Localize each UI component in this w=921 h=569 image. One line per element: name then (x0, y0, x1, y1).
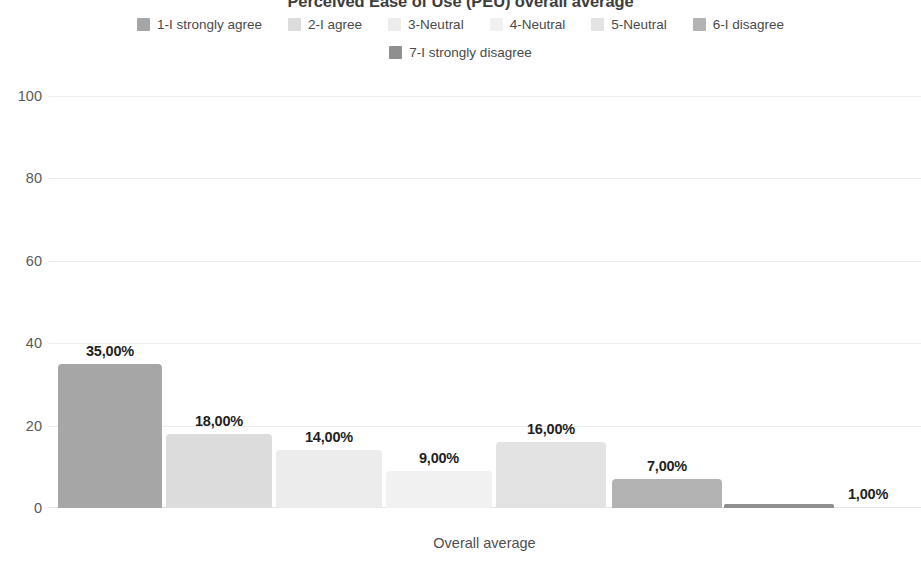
bar[interactable] (724, 504, 834, 508)
legend-item-label: 3-Neutral (408, 17, 464, 32)
legend-item-label: 7-I strongly disagree (409, 45, 531, 60)
bar-column[interactable]: 14,00% (276, 450, 382, 508)
legend-item[interactable]: 6-I disagree (693, 17, 784, 32)
legend-swatch-icon (388, 18, 401, 31)
legend-swatch-icon (288, 18, 301, 31)
y-axis-tick-label: 0 (6, 501, 42, 515)
legend-row-1: 1-I strongly agree2-I agree3-Neutral4-Ne… (0, 17, 921, 32)
legend-item-label: 1-I strongly agree (157, 17, 262, 32)
bar-value-label: 1,00% (848, 486, 888, 502)
legend-item-label: 2-I agree (308, 17, 362, 32)
legend-swatch-icon (490, 18, 503, 31)
legend-item-label: 4-Neutral (510, 17, 566, 32)
legend-swatch-icon (137, 18, 150, 31)
bar[interactable] (386, 471, 492, 508)
bar-value-label: 16,00% (527, 421, 575, 437)
bar[interactable] (612, 479, 722, 508)
bar-value-label: 18,00% (195, 413, 243, 429)
legend-item[interactable]: 7-I strongly disagree (389, 45, 531, 60)
legend-item-label: 6-I disagree (713, 17, 784, 32)
legend-swatch-icon (389, 46, 402, 59)
x-axis-label: Overall average (48, 535, 921, 551)
bar-column[interactable]: 35,00% (58, 364, 162, 508)
bar-series: 35,00%18,00%14,00%9,00%16,00%7,00%1,00% (48, 96, 921, 508)
y-axis-tick-label: 100 (6, 89, 42, 103)
bar-value-label: 9,00% (419, 450, 459, 466)
legend-item[interactable]: 3-Neutral (388, 17, 464, 32)
legend-swatch-icon (693, 18, 706, 31)
bar-value-label: 35,00% (86, 343, 134, 359)
legend-item[interactable]: 2-I agree (288, 17, 362, 32)
bar[interactable] (58, 364, 162, 508)
legend-item[interactable]: 4-Neutral (490, 17, 566, 32)
chart-title: Perceived Ease of Use (PEU) overall aver… (0, 0, 921, 11)
bar-column[interactable]: 18,00% (166, 434, 272, 508)
bar[interactable] (496, 442, 606, 508)
bar-chart: Perceived Ease of Use (PEU) overall aver… (0, 0, 921, 569)
bar-column[interactable]: 7,00% (612, 479, 722, 508)
y-axis-ticks: 100806040200 (0, 96, 42, 508)
plot-area: 35,00%18,00%14,00%9,00%16,00%7,00%1,00% (48, 96, 921, 508)
legend-item-label: 5-Neutral (611, 17, 667, 32)
bar-value-label: 7,00% (647, 458, 687, 474)
bar[interactable] (276, 450, 382, 508)
bar-column[interactable]: 16,00% (496, 442, 606, 508)
legend-row-2: 7-I strongly disagree (0, 45, 921, 60)
y-axis-tick-label: 40 (6, 336, 42, 350)
legend-swatch-icon (591, 18, 604, 31)
bar-column[interactable]: 1,00% (724, 504, 834, 508)
y-axis-tick-label: 20 (6, 419, 42, 433)
y-axis-tick-label: 60 (6, 254, 42, 268)
bar[interactable] (166, 434, 272, 508)
bar-value-label: 14,00% (305, 429, 353, 445)
bar-column[interactable]: 9,00% (386, 471, 492, 508)
y-axis-tick-label: 80 (6, 171, 42, 185)
legend-item[interactable]: 5-Neutral (591, 17, 667, 32)
legend-item[interactable]: 1-I strongly agree (137, 17, 262, 32)
chart-legend: 1-I strongly agree2-I agree3-Neutral4-Ne… (0, 17, 921, 60)
